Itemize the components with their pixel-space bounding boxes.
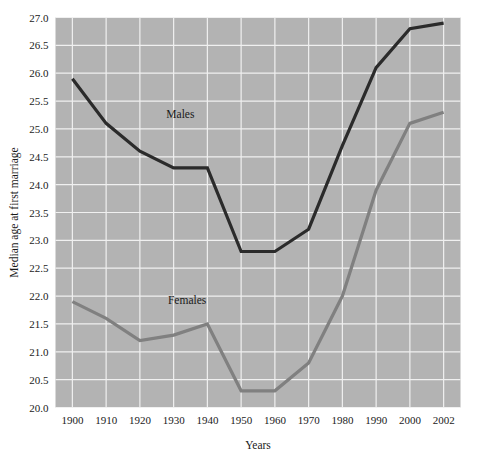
y-tick-label: 25.5 [29,95,49,107]
y-tick-label: 25.0 [29,123,49,135]
y-axis-tick-labels: 20.020.521.021.522.022.523.023.524.024.5… [29,12,49,414]
y-tick-label: 26.0 [29,67,49,79]
y-tick-label: 23.0 [29,234,49,246]
x-tick-label: 1930 [163,414,186,426]
x-tick-label: 1960 [264,414,287,426]
x-tick-label: 2002 [433,414,455,426]
y-tick-label: 21.0 [29,346,49,358]
x-tick-label: 2000 [399,414,422,426]
y-tick-label: 20.0 [29,402,49,414]
line-chart: 20.020.521.021.522.022.523.023.524.024.5… [0,0,477,456]
y-tick-label: 22.5 [29,262,49,274]
x-tick-label: 1970 [298,414,321,426]
y-tick-label: 22.0 [29,290,49,302]
y-tick-label: 26.5 [29,39,49,51]
x-tick-label: 1910 [95,414,118,426]
series-annotation-males: Males [166,108,195,120]
x-tick-label: 1950 [230,414,253,426]
x-tick-label: 1980 [331,414,354,426]
y-axis-title: Median age at first marriage [8,147,21,277]
chart-container: 20.020.521.021.522.022.523.023.524.024.5… [0,0,477,456]
x-axis-title: Years [245,439,271,451]
y-tick-label: 24.0 [29,179,49,191]
x-tick-label: 1940 [196,414,219,426]
y-tick-label: 27.0 [29,12,49,24]
y-tick-label: 23.5 [29,207,49,219]
y-tick-label: 20.5 [29,374,49,386]
y-tick-label: 21.5 [29,318,49,330]
series-annotation-females: Females [168,294,207,306]
y-tick-label: 24.5 [29,151,49,163]
x-tick-label: 1900 [61,414,84,426]
x-tick-label: 1920 [129,414,152,426]
x-tick-label: 1990 [365,414,388,426]
